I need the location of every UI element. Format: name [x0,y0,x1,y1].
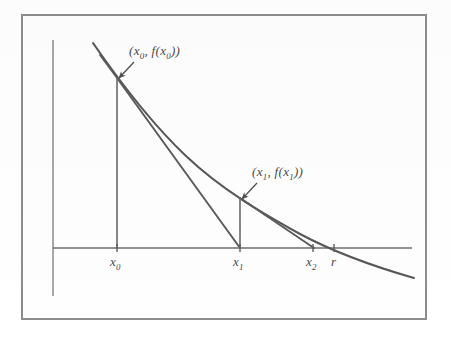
tick-x0-sub: 0 [116,262,121,272]
plot-canvas [0,0,451,339]
axis-tick-label-x1: x1 [233,254,244,272]
point-label-x0: (x0, f(x0)) [129,43,180,61]
figure-root: (x0, f(x0)) (x1, f(x1)) x0 x1 x2 r [0,0,451,339]
axis-tick-label-r: r [331,254,336,270]
tangent-line-0-extension [100,55,117,78]
axis-tick-label-x0: x0 [110,254,121,272]
function-curve [93,43,414,278]
annotation-arrow-p1 [242,183,257,199]
tangent-line-1 [240,198,314,248]
tangent-line-0 [117,78,240,248]
tick-x1-sub: 1 [239,262,244,272]
axis-tick-label-x2: x2 [306,254,317,272]
comma-1: , [267,164,271,179]
tick-r-base: r [331,254,336,269]
paren-close-1: ) [299,164,304,179]
annotation-arrow-p0 [119,62,134,78]
paren-close-0: ) [176,43,181,58]
comma-0: , [144,43,148,58]
point-label-x1: (x1, f(x1)) [252,164,303,182]
tick-x2-sub: 2 [312,262,317,272]
